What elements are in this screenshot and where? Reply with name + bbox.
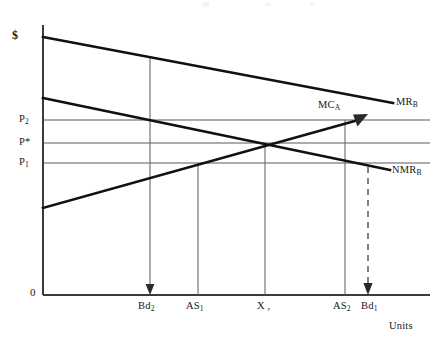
x-tick-label-bd2-sub: 2 (151, 304, 155, 313)
x-tick-label-as2-text: AS (333, 300, 347, 311)
x-tick-label-bd1: Bd1 (361, 300, 378, 311)
x-tick-label-as2-sub: 2 (347, 304, 351, 313)
curve-label-mc-a-text: MC (318, 99, 335, 110)
curve-label-mr-b-text: MR (396, 96, 413, 107)
curve-mr-b (43, 37, 393, 103)
price-label-pstar-text: P* (19, 136, 31, 147)
chart-plot-area (0, 0, 438, 338)
x-tick-label-x: X , (257, 300, 270, 311)
curve-mc-a (43, 120, 358, 208)
x-tick-label-as1-sub: 1 (200, 304, 204, 313)
arrowhead-bd2-icon (146, 284, 155, 295)
x-tick-label-as1-text: AS (186, 300, 200, 311)
price-label-p2-sub: 2 (25, 117, 29, 126)
x-tick-label-bd2-text: Bd (138, 300, 151, 311)
x-tick-label-as1: AS1 (186, 300, 204, 311)
price-label-p1-sub: 1 (25, 160, 29, 169)
x-axis-title: Units (389, 320, 413, 331)
curve-label-mc-a-sub: A (335, 103, 341, 112)
curve-label-mc-a: MCA (318, 99, 340, 110)
x-tick-label-bd1-text: Bd (361, 300, 374, 311)
x-tick-label-bd1-sub: 1 (374, 304, 378, 313)
curve-label-nmr-b-sub: B (417, 168, 422, 177)
curve-label-nmr-b-text: NMR (392, 164, 417, 175)
y-axis-symbol: $ (12, 28, 18, 43)
curve-label-nmr-b: NMRB (392, 164, 422, 175)
price-label-p1: P1 (19, 156, 29, 167)
x-tick-label-x-text: X , (257, 300, 270, 311)
curve-label-mr-b-sub: B (413, 100, 418, 109)
price-label-pstar: P* (19, 136, 31, 147)
x-tick-label-as2: AS2 (333, 300, 351, 311)
curve-label-mr-b: MRB (396, 96, 418, 107)
price-label-p2: P2 (19, 113, 29, 124)
axis-origin-label: 0 (30, 286, 36, 298)
x-tick-label-bd2: Bd2 (138, 300, 155, 311)
economics-chart: $ 0 P2 P* P1 MCA MRB NMRB Bd2 AS1 X , AS… (0, 0, 438, 338)
arrowhead-bd1-icon (363, 283, 372, 295)
